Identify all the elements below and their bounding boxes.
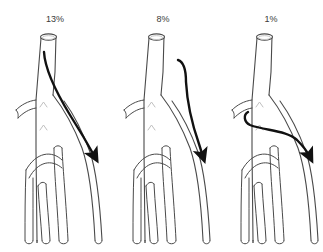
panel-1-anatomy: [16, 34, 102, 244]
vascular-catheter-diagram: 13% 8% 1%: [0, 0, 323, 252]
panel-1: 13%: [16, 14, 102, 244]
panel-2-catheter: [178, 60, 203, 157]
panel-3-label: 1%: [264, 14, 277, 24]
panel-1-catheter: [44, 52, 95, 157]
panel-2-label: 8%: [156, 14, 169, 24]
panel-3-catheter: [245, 112, 310, 157]
diagram-canvas: 13% 8% 1%: [0, 0, 323, 252]
panel-3: 1%: [232, 14, 318, 244]
panel-3-anatomy: [232, 34, 318, 244]
panel-1-label: 13%: [46, 14, 64, 24]
panel-2: 8%: [124, 14, 210, 244]
